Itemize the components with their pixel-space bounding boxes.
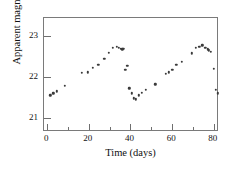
data-point <box>168 71 170 73</box>
data-point <box>80 72 82 74</box>
data-point <box>198 45 200 47</box>
data-point <box>165 73 167 75</box>
x-tick-label: 0 <box>33 133 59 143</box>
x-axis-tick-minor <box>110 127 111 131</box>
y-axis-tick <box>44 36 51 37</box>
data-point <box>175 64 177 66</box>
x-tick-label: 60 <box>158 133 184 143</box>
data-point <box>92 67 94 69</box>
data-point <box>145 89 147 91</box>
x-tick-label: 80 <box>200 133 226 143</box>
data-point <box>128 87 130 89</box>
x-axis-tick <box>130 124 131 130</box>
x-axis-tick <box>172 124 173 130</box>
y-axis-tick <box>44 118 51 119</box>
plot-area <box>43 17 218 131</box>
data-point <box>103 58 105 60</box>
data-point <box>130 92 132 94</box>
x-axis-tick-minor <box>68 127 69 131</box>
data-point <box>124 69 126 71</box>
x-axis-tick <box>47 124 48 130</box>
x-axis-title: Time (days) <box>43 147 218 158</box>
data-point <box>215 89 217 91</box>
data-point <box>171 69 173 71</box>
x-axis-tick <box>214 124 215 130</box>
data-point <box>126 64 128 66</box>
data-point <box>201 44 203 46</box>
data-point <box>52 92 54 94</box>
data-point <box>209 51 211 53</box>
data-point <box>213 68 215 70</box>
data-point <box>112 47 114 49</box>
data-point <box>107 51 109 53</box>
data-point <box>154 83 156 85</box>
y-tick-label: 23 <box>18 31 38 40</box>
light-curve-figure: Apparent magnitude 020406080 212223 Time… <box>0 0 233 178</box>
data-point <box>180 60 182 62</box>
data-point <box>97 64 99 66</box>
scatter-points-layer <box>44 18 217 130</box>
y-tick-label: 21 <box>18 112 38 121</box>
data-point <box>64 85 66 87</box>
data-point <box>87 71 89 73</box>
data-point <box>191 52 193 54</box>
x-tick-label: 20 <box>75 133 101 143</box>
data-point <box>217 92 219 94</box>
data-point <box>138 94 140 96</box>
data-point <box>195 47 197 49</box>
data-point <box>55 90 57 92</box>
x-axis-tick-minor <box>151 127 152 131</box>
x-axis-tick-minor <box>193 127 194 131</box>
data-point <box>49 94 51 96</box>
data-point <box>134 98 136 100</box>
data-point <box>141 91 143 93</box>
y-axis-tick <box>44 77 51 78</box>
x-axis-tick <box>89 124 90 130</box>
x-tick-label: 40 <box>116 133 142 143</box>
y-tick-label: 22 <box>18 72 38 81</box>
